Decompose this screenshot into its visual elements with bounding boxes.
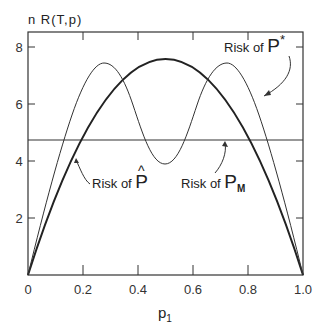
annotation-pm-letter: P bbox=[224, 171, 237, 192]
annotation-pm-sub: M bbox=[237, 183, 245, 194]
arrow-head-phat bbox=[74, 158, 79, 163]
annotation-phat-hat: ^ bbox=[138, 163, 145, 179]
x-axis-label-sub: 1 bbox=[166, 313, 172, 324]
x-axis-label: p1 bbox=[158, 304, 172, 324]
arrow-phat bbox=[76, 160, 90, 184]
annotation-pm-prefix: Risk of bbox=[181, 176, 224, 191]
x-tick-label: 1.0 bbox=[294, 282, 312, 297]
risk-chart: 8 6 4 2 0 0.2 0.4 0.6 0.8 1.0 n R(T,p) p… bbox=[0, 0, 322, 332]
annotation-pstar-letter: P bbox=[267, 35, 280, 56]
series-risk-phat bbox=[28, 59, 303, 275]
annotation-phat-prefix: Risk of bbox=[92, 176, 135, 191]
y-tick-label: 2 bbox=[15, 211, 22, 226]
plot-frame bbox=[28, 32, 303, 275]
x-tick-label: 0.6 bbox=[184, 282, 202, 297]
x-tick-label: 0.2 bbox=[74, 282, 92, 297]
series-risk-pstar bbox=[28, 63, 303, 275]
arrow-pstar bbox=[264, 56, 290, 96]
annotation-risk-pstar: Risk of P* bbox=[224, 32, 290, 96]
arrow-pm bbox=[215, 143, 225, 173]
annotation-pstar-prefix: Risk of bbox=[224, 40, 267, 55]
x-tick-label: 0.8 bbox=[239, 282, 257, 297]
arrow-head-pstar bbox=[264, 90, 271, 96]
x-axis-ticks bbox=[83, 32, 248, 275]
arrow-head-pm bbox=[222, 141, 228, 147]
svg-text:Risk of P*: Risk of P* bbox=[224, 32, 285, 56]
y-axis-ticks bbox=[28, 47, 303, 218]
y-tick-label: 4 bbox=[15, 154, 22, 169]
annotation-pstar-sup: * bbox=[280, 32, 285, 47]
x-tick-label: 0 bbox=[24, 282, 31, 297]
y-tick-label: 6 bbox=[15, 97, 22, 112]
svg-text:Risk of PM: Risk of PM bbox=[181, 171, 245, 194]
x-tick-label: 0.4 bbox=[129, 282, 147, 297]
annotation-risk-phat: Risk of P ^ bbox=[74, 158, 148, 192]
x-axis-label-main: p bbox=[158, 304, 166, 321]
y-axis-label: n R(T,p) bbox=[28, 12, 82, 27]
y-tick-label: 8 bbox=[15, 40, 22, 55]
annotation-risk-pm: Risk of PM bbox=[181, 141, 245, 194]
